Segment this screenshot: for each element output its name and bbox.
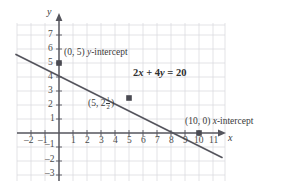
x-tick-label-neg2: –2 bbox=[24, 136, 34, 146]
x-tick-label-10: 10 bbox=[194, 136, 204, 146]
midpoint-fraction: 12 bbox=[106, 96, 110, 110]
equation-equals: = bbox=[165, 67, 176, 78]
y-intercept-suffix: -intercept bbox=[91, 47, 127, 57]
y-axis-label: y bbox=[47, 7, 51, 17]
point-marker-y-intercept bbox=[56, 60, 62, 66]
coordinate-plane bbox=[0, 0, 286, 195]
x-tick-label-4: 4 bbox=[113, 136, 118, 146]
y-intercept-coords: (0, 5) bbox=[64, 47, 87, 57]
graph-figure: y x 7 6 5 4 3 2 1 –1 –2 –3 –2 –1 1 2 3 4… bbox=[0, 0, 286, 195]
x-intercept-annotation: (10, 0) x-intercept bbox=[185, 117, 253, 127]
x-tick-label-9: 9 bbox=[183, 136, 188, 146]
x-tick-label-5: 5 bbox=[127, 136, 132, 146]
x-tick-label-2: 2 bbox=[85, 136, 90, 146]
x-tick-label-7: 7 bbox=[155, 136, 160, 146]
y-tick-label-6: 6 bbox=[48, 44, 53, 54]
y-tick-label-neg2: –2 bbox=[45, 155, 55, 165]
x-tick-label-11: 11 bbox=[209, 136, 218, 146]
y-tick-label-3: 3 bbox=[48, 86, 53, 96]
y-tick-label-1: 1 bbox=[50, 114, 55, 124]
point-marker-midpoint bbox=[126, 95, 132, 101]
y-intercept-annotation: (0, 5) y-intercept bbox=[64, 48, 128, 58]
y-tick-label-7: 7 bbox=[48, 30, 53, 40]
fraction-denominator: 2 bbox=[106, 104, 110, 111]
x-intercept-suffix: -intercept bbox=[217, 116, 253, 126]
y-axis-arrow bbox=[56, 13, 63, 21]
x-tick-label-3: 3 bbox=[99, 136, 104, 146]
x-tick-label-6: 6 bbox=[141, 136, 146, 146]
y-tick-label-2: 2 bbox=[48, 100, 53, 110]
x-tick-label-1: 1 bbox=[71, 136, 76, 146]
y-tick-label-5: 5 bbox=[48, 58, 53, 68]
x-tick-label-8: 8 bbox=[169, 136, 174, 146]
midpoint-suffix: ) bbox=[111, 98, 114, 108]
equation-rhs: 20 bbox=[176, 67, 187, 78]
midpoint-prefix: (5, 2 bbox=[88, 98, 105, 108]
x-intercept-coords: (10, 0) bbox=[185, 116, 213, 126]
x-tick-label-neg1: –1 bbox=[38, 136, 48, 146]
equation-plus: + bbox=[144, 67, 155, 78]
x-axis-label: x bbox=[228, 133, 232, 143]
y-tick-label-4: 4 bbox=[48, 72, 53, 82]
midpoint-annotation: (5, 212) bbox=[88, 96, 114, 110]
y-tick-label-neg3: –3 bbox=[45, 169, 55, 179]
equation-label: 2x + 4y = 20 bbox=[133, 68, 186, 79]
